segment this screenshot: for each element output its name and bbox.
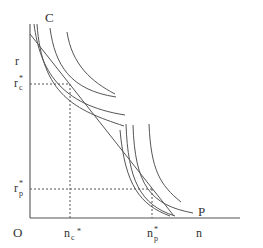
economics-diagram: C P r n O r c * r p * n c * n p * bbox=[0, 0, 263, 248]
svg-text:c: c bbox=[19, 83, 23, 92]
svg-text:n: n bbox=[64, 226, 70, 240]
curve-c-3 bbox=[67, 32, 115, 94]
svg-text:*: * bbox=[77, 227, 81, 236]
label-r-p-star: r p * bbox=[14, 179, 23, 198]
label-y-axis: r bbox=[15, 54, 19, 68]
svg-text:*: * bbox=[19, 179, 23, 188]
svg-text:p: p bbox=[154, 234, 158, 243]
svg-text:*: * bbox=[19, 74, 23, 83]
svg-text:p: p bbox=[19, 189, 23, 198]
label-r-c-star: r c * bbox=[14, 74, 23, 92]
label-curve-p: P bbox=[198, 204, 205, 219]
svg-text:r: r bbox=[14, 181, 18, 195]
curve-p-2 bbox=[133, 125, 193, 213]
svg-text:n: n bbox=[147, 226, 153, 240]
svg-text:*: * bbox=[154, 225, 158, 234]
svg-text:r: r bbox=[14, 76, 18, 90]
label-curve-c: C bbox=[45, 10, 54, 25]
label-x-axis: n bbox=[196, 226, 202, 240]
label-n-p-star: n p * bbox=[147, 225, 158, 243]
label-origin: O bbox=[13, 225, 22, 240]
curve-c-inner bbox=[37, 24, 124, 126]
svg-text:c: c bbox=[71, 233, 75, 242]
curve-c-2 bbox=[50, 28, 116, 97]
label-n-c-star: n c * bbox=[64, 226, 81, 242]
curve-c-1 bbox=[34, 24, 125, 115]
